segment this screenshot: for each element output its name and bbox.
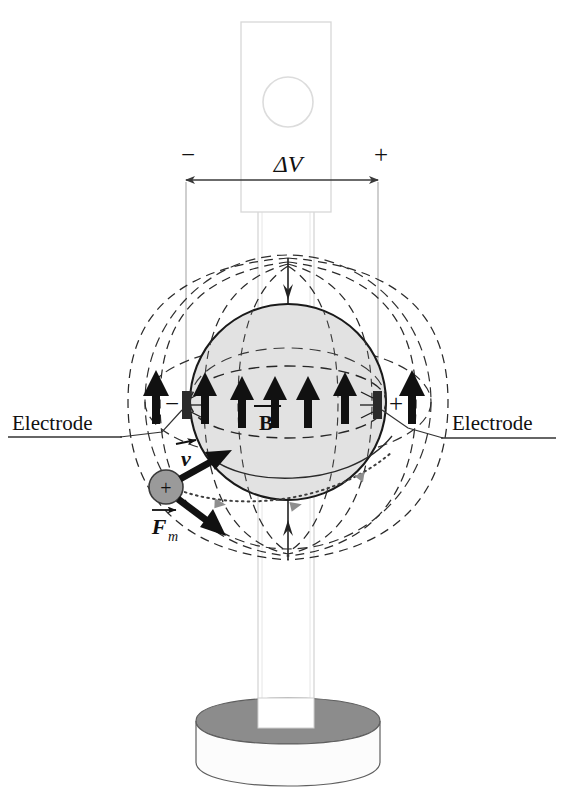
base-column-opening — [258, 698, 314, 728]
delta-v-label: ΔV — [273, 151, 305, 177]
pedestal-base — [196, 698, 380, 786]
electrode-label-left: Electrode — [12, 411, 92, 435]
polarity-sign-negative-top: − — [181, 141, 195, 168]
polarity-sign-positive-top: + — [374, 141, 388, 168]
electrode-left[interactable] — [182, 391, 191, 419]
physics-diagram: ΔV − + — [0, 0, 561, 801]
diagram-canvas: ΔV − + — [0, 0, 561, 801]
voltage-source-box — [241, 22, 331, 212]
magnetic-force-subscript: m — [168, 529, 178, 544]
magnetic-force-label: F — [151, 514, 167, 539]
velocity-label: v — [181, 446, 191, 471]
magnetized-sphere — [190, 304, 386, 500]
b-field-label: B — [259, 411, 273, 435]
electrode-label-right: Electrode — [452, 411, 532, 435]
electrode-right[interactable] — [373, 391, 382, 419]
particle-charge-label: + — [160, 477, 171, 499]
circular-dial-icon — [263, 77, 313, 127]
